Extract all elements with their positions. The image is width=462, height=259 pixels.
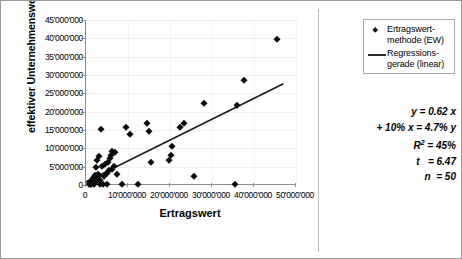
stat-t-label: t: [416, 156, 419, 167]
stat-t-value: = 6.47: [428, 156, 456, 167]
x-tick-mark: [253, 183, 254, 187]
x-tick-mark: [211, 183, 212, 187]
y-axis-tick-labels: 05'000'00010'000'00015'000'00020'000'000…: [25, 20, 83, 185]
y-tick-label: 45'000'000: [25, 15, 83, 25]
scatter-point: [240, 77, 246, 83]
x-axis-tick-labels: 010'000'00020'000'00030'000'00040'000'00…: [85, 187, 295, 201]
y-tick-label: 0: [25, 180, 83, 190]
scatter-point: [146, 127, 152, 133]
x-tick-label: 30'000'000: [192, 190, 230, 200]
scatter-point: [168, 143, 174, 149]
scatter-point: [234, 102, 240, 108]
scatter-point: [201, 99, 207, 105]
stat-r-label: R: [413, 140, 420, 151]
legend-item-regression: Regressions- gerade (linear): [367, 48, 451, 69]
x-tick-mark: [85, 183, 86, 187]
legend-scatter-line2: methode (EW): [387, 35, 444, 45]
legend-label-regression: Regressions- gerade (linear): [387, 48, 444, 69]
stat-n-label: n: [425, 171, 431, 182]
stat-r-squared: R2 = 45%: [331, 135, 456, 154]
panel-divider: [318, 9, 319, 252]
line-marker-icon: [367, 48, 387, 61]
legend-regression-line2: gerade (linear): [387, 59, 444, 69]
legend-scatter-line1: Ertragswert-: [387, 24, 435, 34]
y-tick-label: 10'000'000: [25, 143, 83, 153]
legend-regression-line1: Regressions-: [387, 48, 439, 58]
stat-n-value: = 50: [436, 171, 456, 182]
legend-item-scatter: Ertragswert- methode (EW): [367, 24, 451, 45]
stat-r-value: = 45%: [427, 140, 456, 151]
x-tick-label: 0: [83, 190, 87, 200]
scatter-points: [86, 20, 295, 184]
x-tick-label: 20'000'000: [150, 190, 188, 200]
legend-label-scatter: Ertragswert- methode (EW): [387, 24, 444, 45]
chart-figure: effektiver Unternehmenswert 05'000'00010…: [0, 0, 462, 259]
statistics-box: y = 0.62 x + 10% x = 4.7% y R2 = 45% t =…: [331, 104, 456, 185]
chart-legend: Ertragswert- methode (EW) Regressions- g…: [363, 19, 455, 74]
y-tick-label: 5'000'000: [25, 162, 83, 172]
scatter-point: [144, 120, 150, 126]
y-tick-label: 15'000'000: [25, 125, 83, 135]
scatter-point: [147, 159, 153, 165]
y-tick-label: 40'000'000: [25, 33, 83, 43]
x-tick-label: 40'000'000: [234, 190, 272, 200]
stat-r-exponent: 2: [421, 139, 425, 146]
scatter-point: [114, 170, 120, 176]
vertical-gridline: [296, 20, 297, 184]
stat-n: n = 50: [331, 169, 456, 185]
x-tick-label: 50'000'000: [276, 190, 314, 200]
x-tick-mark: [295, 183, 296, 187]
stat-t: t = 6.47: [331, 154, 456, 170]
diamond-marker-icon: [367, 24, 387, 37]
plot-area: [85, 20, 295, 185]
scatter-point: [190, 173, 196, 179]
x-tick-label: 10'000'000: [108, 190, 146, 200]
y-tick-label: 35'000'000: [25, 52, 83, 62]
x-tick-mark: [169, 183, 170, 187]
x-tick-mark: [127, 183, 128, 187]
stat-equation: y = 0.62 x: [331, 104, 456, 120]
scatter-point: [98, 126, 104, 132]
x-axis-title: Ertragswert: [85, 207, 295, 219]
y-tick-label: 30'000'000: [25, 70, 83, 80]
scatter-point: [274, 36, 280, 42]
stat-elasticity: + 10% x = 4.7% y: [331, 120, 456, 136]
y-tick-label: 25'000'000: [25, 88, 83, 98]
scatter-point: [123, 123, 129, 129]
scatter-point: [126, 131, 132, 137]
y-tick-label: 20'000'000: [25, 107, 83, 117]
